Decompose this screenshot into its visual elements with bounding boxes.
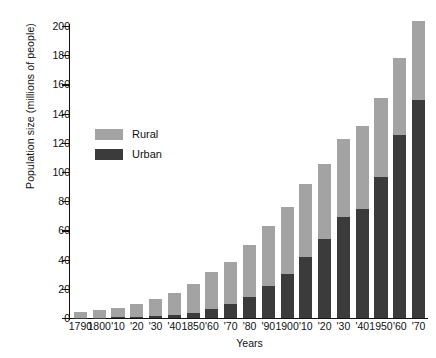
bar-segment-urban bbox=[168, 315, 181, 318]
bar-1910 bbox=[299, 184, 312, 318]
x-axis-tick-label: '30 bbox=[337, 320, 351, 332]
x-axis-tick-label: '80 bbox=[243, 320, 257, 332]
x-axis-tick-label: 1950 bbox=[369, 320, 392, 332]
bar-1840 bbox=[168, 293, 181, 318]
y-axis-tick-label: 200 bbox=[36, 20, 70, 32]
y-axis-tick-label: 60 bbox=[36, 224, 70, 236]
bar-1890 bbox=[262, 226, 275, 318]
bar-1960 bbox=[393, 58, 406, 318]
bar-segment-rural bbox=[149, 299, 162, 316]
bar-1790 bbox=[74, 312, 87, 318]
y-axis-tick-label: 160 bbox=[36, 78, 70, 90]
bar-segment-urban bbox=[205, 309, 218, 318]
x-axis-tick-label: '20 bbox=[318, 320, 332, 332]
y-axis-tick-label: 180 bbox=[36, 49, 70, 61]
bar-1920 bbox=[318, 164, 331, 318]
bar-segment-urban bbox=[111, 317, 124, 318]
bar-segment-urban bbox=[130, 317, 143, 318]
bar-segment-rural bbox=[299, 184, 312, 257]
y-axis-tick-label: 100 bbox=[36, 166, 70, 178]
legend-label-rural: Rural bbox=[132, 129, 158, 140]
bar-segment-urban bbox=[149, 316, 162, 318]
bar-1940 bbox=[356, 126, 369, 318]
legend-item-urban: Urban bbox=[95, 146, 191, 163]
x-axis-tick-label: '40 bbox=[167, 320, 181, 332]
bar-segment-rural bbox=[130, 304, 143, 317]
bar-segment-urban bbox=[187, 313, 200, 318]
bar-segment-urban bbox=[224, 304, 237, 318]
y-axis-tick-label: 140 bbox=[36, 108, 70, 120]
bar-1950 bbox=[374, 98, 387, 318]
x-axis-tick-label: '70 bbox=[412, 320, 426, 332]
chart-legend: Rural Urban bbox=[95, 126, 191, 166]
bar-series-area bbox=[71, 24, 428, 318]
legend-item-rural: Rural bbox=[95, 126, 191, 143]
legend-swatch-urban bbox=[95, 149, 123, 160]
bar-1930 bbox=[337, 139, 350, 318]
bar-segment-rural bbox=[412, 21, 425, 100]
y-axis-tick-label: 120 bbox=[36, 137, 70, 149]
x-axis-tick-labels: 17901800'10'20'30'401850'60'70'80'901900… bbox=[71, 320, 428, 336]
bar-segment-urban bbox=[299, 257, 312, 318]
bar-segment-urban bbox=[393, 135, 406, 318]
y-axis-tick-label: 20 bbox=[36, 283, 70, 295]
bar-1900 bbox=[281, 207, 294, 318]
bar-segment-urban bbox=[356, 209, 369, 318]
legend-label-urban: Urban bbox=[132, 149, 162, 160]
bar-segment-rural bbox=[374, 98, 387, 177]
bar-segment-rural bbox=[111, 308, 124, 318]
x-axis-tick-label: 1800 bbox=[87, 320, 110, 332]
bar-1880 bbox=[243, 245, 256, 318]
bar-1970 bbox=[412, 21, 425, 318]
bar-segment-urban bbox=[318, 239, 331, 318]
bar-1830 bbox=[149, 299, 162, 318]
y-axis-title: Population size (millions of people) bbox=[24, 0, 36, 216]
y-axis-tick-label: 0 bbox=[36, 312, 70, 324]
bar-segment-urban bbox=[262, 286, 275, 318]
x-axis-tick-label: '40 bbox=[355, 320, 369, 332]
bar-1870 bbox=[224, 262, 237, 318]
bar-1850 bbox=[187, 284, 200, 318]
bar-segment-rural bbox=[356, 126, 369, 210]
bar-segment-rural bbox=[205, 272, 218, 309]
population-stacked-bar-chart: Population size (millions of people) 020… bbox=[0, 0, 436, 358]
x-axis-tick-label: 1850 bbox=[181, 320, 204, 332]
y-axis-tick-label: 40 bbox=[36, 254, 70, 266]
bar-segment-rural bbox=[187, 284, 200, 313]
bar-segment-urban bbox=[281, 274, 294, 318]
bar-segment-rural bbox=[393, 58, 406, 135]
bar-segment-rural bbox=[93, 310, 106, 317]
bar-1820 bbox=[130, 304, 143, 318]
x-axis-tick-label: '20 bbox=[130, 320, 144, 332]
bar-segment-rural bbox=[318, 164, 331, 239]
bar-1860 bbox=[205, 272, 218, 318]
bar-1810 bbox=[111, 308, 124, 319]
x-axis-tick-label: '70 bbox=[224, 320, 238, 332]
x-axis-tick-label: '60 bbox=[393, 320, 407, 332]
bar-segment-urban bbox=[337, 217, 350, 318]
x-axis-title: Years bbox=[71, 337, 428, 349]
bar-segment-rural bbox=[262, 226, 275, 286]
bar-segment-rural bbox=[243, 245, 256, 298]
x-axis-tick-label: '10 bbox=[111, 320, 125, 332]
bar-segment-rural bbox=[281, 207, 294, 274]
bar-segment-rural bbox=[168, 293, 181, 315]
bar-1800 bbox=[93, 310, 106, 318]
bar-segment-urban bbox=[243, 297, 256, 318]
y-axis-tick-label: 80 bbox=[36, 195, 70, 207]
x-axis-tick-label: '60 bbox=[205, 320, 219, 332]
bar-segment-rural bbox=[337, 139, 350, 218]
x-axis-tick-label: 1900 bbox=[275, 320, 298, 332]
bar-segment-urban bbox=[374, 177, 387, 318]
bar-segment-rural bbox=[224, 262, 237, 304]
x-axis-tick-label: '90 bbox=[261, 320, 275, 332]
x-axis-tick-label: '10 bbox=[299, 320, 313, 332]
x-axis-tick-label: '30 bbox=[149, 320, 163, 332]
bar-segment-urban bbox=[412, 100, 425, 318]
legend-swatch-rural bbox=[95, 129, 123, 140]
